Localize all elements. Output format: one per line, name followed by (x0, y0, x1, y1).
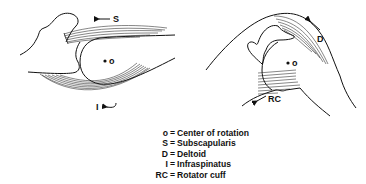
right-d-arrow-icon (310, 21, 320, 30)
legend-row: D = Deltoid (146, 149, 249, 159)
legend-row: I = Infraspinatus (146, 159, 249, 169)
right-figure: o D RC (206, 13, 356, 116)
left-humeral-head (80, 35, 175, 84)
right-center-label: o (292, 58, 298, 68)
right-humeral-head (262, 42, 278, 90)
right-center-dot (286, 61, 289, 64)
legend-value: Deltoid (177, 149, 206, 159)
legend-eq: = (168, 149, 177, 159)
left-center-dot (103, 59, 106, 62)
left-s-label: S (113, 14, 119, 24)
legend-value: Center of rotation (177, 128, 249, 138)
left-scapula-outline (20, 13, 78, 55)
left-figure: o S I (20, 13, 175, 112)
right-outer-outline (206, 13, 356, 108)
legend-row: RC = Rotator cuff (146, 170, 249, 180)
legend: o = Center of rotation S = Subscapularis… (146, 128, 249, 180)
legend-value: Rotator cuff (177, 170, 226, 180)
legend-value: Infraspinatus (177, 159, 231, 169)
legend-key: o (146, 128, 168, 138)
left-glenoid-outline (28, 42, 80, 74)
legend-eq: = (168, 159, 177, 169)
legend-row: o = Center of rotation (146, 128, 249, 138)
right-rc-label: RC (268, 94, 281, 104)
subscapularis-muscle (64, 26, 167, 44)
legend-eq: = (168, 138, 177, 148)
legend-key: S (146, 138, 168, 148)
legend-row: S = Subscapularis (146, 138, 249, 148)
legend-key: D (146, 149, 168, 159)
legend-key: RC (146, 170, 168, 180)
right-d-label: D (317, 34, 324, 44)
left-i-arrow-icon (107, 103, 116, 107)
left-center-label: o (109, 56, 115, 66)
legend-value: Subscapularis (177, 138, 236, 148)
infraspinatus-muscle (40, 63, 150, 90)
legend-key: I (146, 159, 168, 169)
legend-eq: = (168, 170, 177, 180)
left-i-label: I (96, 102, 99, 112)
legend-eq: = (168, 128, 177, 138)
right-lower-outline (242, 88, 330, 116)
right-acromion-outline (248, 25, 295, 64)
